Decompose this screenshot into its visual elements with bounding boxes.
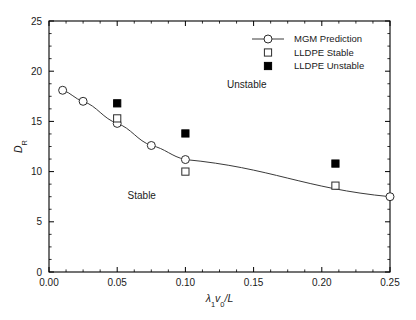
y-tick-label: 0 (36, 267, 42, 278)
legend-marker-filled-square (264, 62, 271, 69)
y-tick-label: 25 (31, 16, 43, 27)
y-axis-title: DR (12, 139, 29, 153)
x-tick-label: 0.20 (312, 277, 332, 288)
data-point-open-square (332, 182, 339, 189)
legend-marker-open-square (264, 49, 271, 56)
data-point-open-circle (79, 97, 87, 105)
legend-marker-open-circle (264, 35, 272, 43)
x-tick-label: 0.15 (244, 277, 264, 288)
x-tick-label: 0.05 (107, 277, 127, 288)
x-axis-title: λ1v0/L (205, 292, 234, 309)
data-point-filled-square (182, 130, 189, 137)
plot-frame (49, 21, 390, 272)
data-point-open-circle (147, 141, 155, 149)
data-point-open-square (114, 115, 121, 122)
y-tick-label: 20 (31, 66, 43, 77)
y-tick-label: 10 (31, 166, 43, 177)
region-label-unstable: Unstable (227, 79, 267, 90)
data-point-open-circle (59, 86, 67, 94)
scatter-plot: 0.000.050.100.150.200.250510152025Unstab… (0, 0, 416, 320)
y-tick-label: 5 (36, 216, 42, 227)
legend-label: MGM Prediction (294, 33, 362, 44)
data-point-filled-square (114, 100, 121, 107)
chart-figure: 0.000.050.100.150.200.250510152025Unstab… (0, 0, 416, 320)
data-point-filled-square (332, 160, 339, 167)
y-tick-label: 15 (31, 116, 43, 127)
legend-label: LLDPE Stable (294, 47, 354, 58)
data-point-open-circle (386, 193, 394, 201)
prediction-curve (63, 90, 390, 196)
x-tick-label: 0.10 (176, 277, 196, 288)
x-tick-label: 0.25 (380, 277, 400, 288)
region-label-stable: Stable (128, 190, 157, 201)
data-point-open-square (182, 168, 189, 175)
x-tick-label: 0.00 (39, 277, 59, 288)
legend-label: LLDPE Unstable (294, 60, 364, 71)
data-point-open-circle (181, 156, 189, 164)
